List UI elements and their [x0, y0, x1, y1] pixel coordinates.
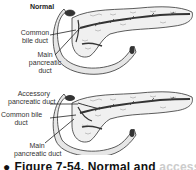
panel-normal: Normal Common bile duct Main pancreatic … [0, 0, 196, 85]
caption-clipped-text: accessory [159, 160, 196, 170]
panel-accessory: Accessory pancreatic duct Common bile du… [0, 85, 196, 155]
label-common-bile-duct: Common bile duct [18, 29, 52, 45]
label-main-pancreatic-duct: Main pancreatic duct [14, 142, 60, 158]
label-common-bile-duct: Common bile duct [1, 111, 41, 127]
figure-caption: ●Figure 7-54. Normal and accessory [3, 160, 196, 170]
label-main-pancreatic-duct: Main pancreatic duct [28, 51, 62, 75]
label-accessory-pancreatic-duct: Accessory pancreatic duct [8, 90, 50, 106]
panel-title: Normal [30, 3, 54, 10]
caption-text: Figure 7-54. Normal and [14, 160, 155, 170]
bullet-icon: ● [3, 160, 10, 170]
